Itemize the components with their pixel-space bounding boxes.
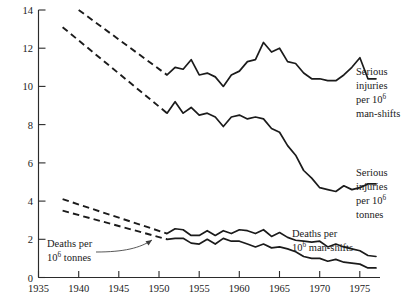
x-tick-label: 1960 (229, 283, 250, 294)
annotation-line: per 10 (356, 94, 383, 105)
series-line (167, 42, 376, 86)
svg-text:106 tonnes: 106 tonnes (47, 251, 91, 263)
annotation-line: man-shifts (356, 108, 400, 119)
y-tick-marks (39, 10, 46, 278)
annotation-line: man-shifts (309, 242, 353, 253)
y-tick-label: 8 (28, 120, 33, 131)
x-tick-label: 1975 (349, 283, 370, 294)
annotation-line: Serious (356, 66, 388, 77)
y-tick-label: 12 (23, 43, 34, 54)
annotation-line: 10 (47, 252, 58, 263)
y-tick-label: 10 (23, 81, 34, 92)
y-tick-label: 0 (28, 273, 33, 284)
superscript: 6 (383, 194, 387, 202)
annotation-line: per 10 (356, 195, 383, 206)
annotation-line: injuries (356, 181, 388, 192)
x-tick-label: 1950 (149, 283, 170, 294)
series-dashed-segment (79, 10, 167, 75)
x-tick-label: 1970 (309, 283, 330, 294)
chart-plot-area: 14 12 10 8 6 4 2 0 1935 1940 1945 1950 (0, 0, 414, 305)
x-tick-label: 1935 (28, 283, 49, 294)
annotation-serious-injuries-tonnes: Serious injuries per 106 tonnes (356, 167, 388, 220)
y-tick-label: 4 (28, 196, 34, 207)
svg-text:106 man-shifts: 106 man-shifts (292, 241, 353, 253)
y-tick-label: 14 (23, 5, 34, 16)
svg-text:per 106: per 106 (356, 194, 387, 206)
annotation-line: 10 (292, 242, 303, 253)
series-dashed-segment (63, 27, 167, 113)
x-tick-labels: 1935 1940 1945 1950 1955 1960 1965 1970 … (28, 283, 370, 294)
chart-figure: 14 12 10 8 6 4 2 0 1935 1940 1945 1950 (0, 0, 414, 305)
annotation-line: tonnes (64, 252, 91, 263)
x-tick-label: 1945 (108, 283, 129, 294)
annotation-line: injuries (356, 80, 388, 91)
x-tick-label: 1965 (269, 283, 290, 294)
annotation-leader-arrow (96, 240, 152, 252)
y-tick-label: 2 (28, 234, 33, 245)
superscript: 6 (383, 93, 387, 101)
svg-text:per 106: per 106 (356, 93, 387, 105)
annotation-line: Serious (356, 167, 388, 178)
series-line (167, 102, 376, 192)
series-dashed-segment (63, 199, 167, 233)
annotation-line: Deaths per (47, 238, 93, 249)
annotation-deaths-per-tonnes: Deaths per 106 tonnes (47, 238, 93, 263)
x-tick-label: 1955 (189, 283, 210, 294)
annotation-line: Deaths per (292, 228, 338, 239)
series-dashed-segment (63, 211, 167, 240)
x-tick-label: 1940 (68, 283, 89, 294)
y-tick-label: 6 (28, 158, 33, 169)
annotation-line: tonnes (356, 209, 383, 220)
x-tick-marks (39, 271, 360, 278)
annotation-serious-injuries-man-shifts: Serious injuries per 106 man-shifts (356, 66, 400, 119)
y-tick-labels: 14 12 10 8 6 4 2 0 (23, 5, 34, 284)
